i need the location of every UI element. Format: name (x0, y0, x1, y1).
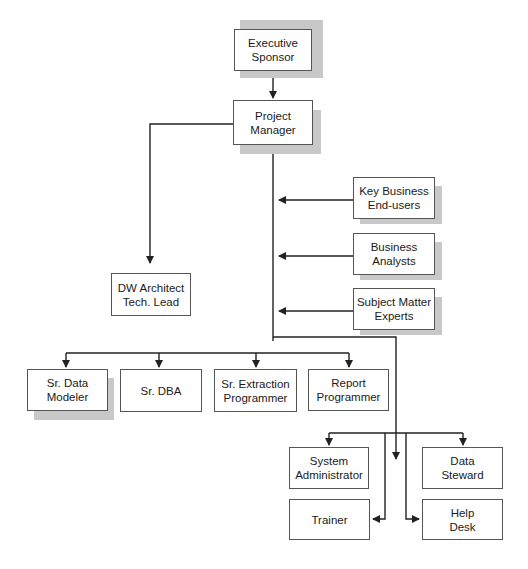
node-label: Business Analysts (371, 240, 418, 268)
node-label: Data Steward (441, 454, 483, 482)
node-label: Sr. Data Modeler (28, 376, 107, 404)
node-help-desk: Help Desk (422, 499, 503, 540)
node-label: System Administrator (295, 454, 363, 482)
node-data-steward: Data Steward (422, 447, 503, 489)
node-label: DW Architect Tech. Lead (118, 281, 184, 309)
node-label: Key Business End-users (359, 184, 429, 212)
node-label: Trainer (312, 513, 348, 527)
node-label: Sr. Extraction Programmer (221, 377, 289, 405)
node-label: Subject Matter Experts (357, 295, 431, 323)
node-executive-sponsor: Executive Sponsor (234, 29, 312, 71)
node-dw-architect: DW Architect Tech. Lead (111, 273, 191, 316)
node-label: Help Desk (449, 506, 475, 534)
node-label: Report Programmer (317, 376, 381, 404)
node-business-analysts: Business Analysts (353, 233, 435, 275)
node-sr-dba: Sr. DBA (120, 369, 202, 412)
node-project-manager: Project Manager (233, 100, 313, 145)
node-label: Executive Sponsor (248, 36, 298, 64)
node-sr-extraction-programmer: Sr. Extraction Programmer (214, 369, 297, 412)
node-trainer: Trainer (289, 499, 370, 540)
node-sr-data-modeler: Sr. Data Modeler (27, 369, 108, 411)
node-label: Sr. DBA (141, 384, 182, 398)
node-system-administrator: System Administrator (289, 447, 369, 489)
node-label: Project Manager (234, 109, 312, 137)
node-subject-matter-experts: Subject Matter Experts (353, 288, 435, 330)
node-key-business-end-users: Key Business End-users (353, 177, 435, 219)
node-report-programmer: Report Programmer (308, 369, 389, 411)
